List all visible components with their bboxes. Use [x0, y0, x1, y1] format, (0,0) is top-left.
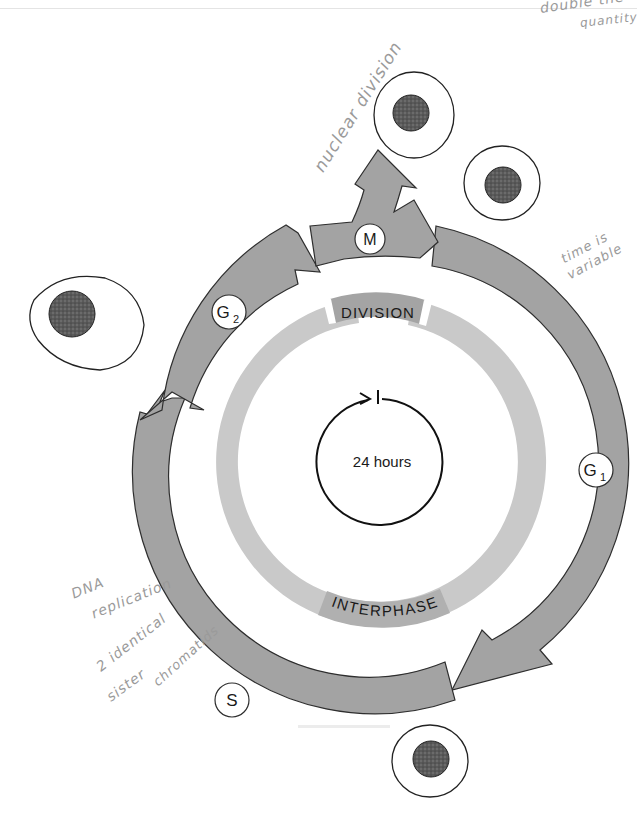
- phase-m-badge: M: [355, 224, 385, 254]
- svg-text:S: S: [226, 691, 237, 710]
- cell-daughter-right: [464, 146, 540, 220]
- division-label: DIVISION: [341, 304, 415, 321]
- svg-text:2: 2: [233, 313, 239, 325]
- svg-text:G: G: [216, 303, 229, 322]
- cell-g1-small: [392, 725, 468, 797]
- cell-g2-large: [30, 276, 144, 370]
- svg-text:1: 1: [600, 471, 606, 483]
- cell-cycle-diagram: DIVISION INTERPHASE 24 hours M G 1 S G 2: [0, 0, 637, 823]
- svg-text:M: M: [363, 231, 376, 248]
- phase-g1-badge: G 1: [579, 453, 613, 487]
- bleed-through-mark: [298, 725, 390, 728]
- svg-text:G: G: [583, 461, 596, 480]
- cell-daughter-top: [374, 72, 454, 158]
- phase-g2-badge: G 2: [212, 295, 246, 329]
- phase-s-badge: S: [215, 683, 249, 717]
- duration-label: 24 hours: [353, 453, 411, 470]
